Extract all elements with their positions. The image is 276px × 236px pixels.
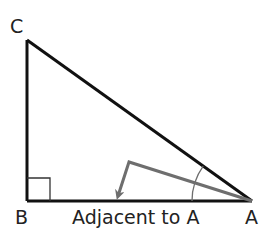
vertex-label-c: C [10,15,23,37]
vertex-label-b: B [15,206,28,228]
side-ca-hypotenuse [27,40,252,201]
side-label-adjacent: Adjacent to A [72,206,199,228]
adjacent-pointer-arrow [118,162,252,201]
right-angle-marker [27,178,50,201]
vertex-label-a: A [245,206,258,228]
triangle-diagram: C B Adjacent to A A [0,0,276,236]
